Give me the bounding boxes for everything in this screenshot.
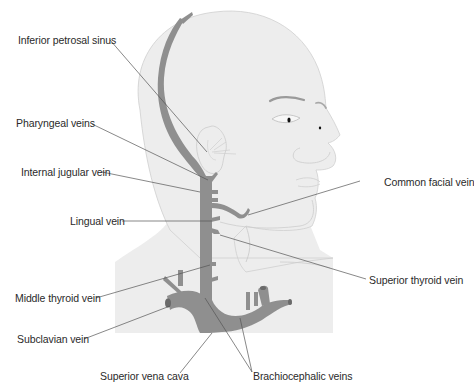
middle-thyroid-branch (211, 262, 216, 266)
label-superior-thyroid-vein: Superior thyroid vein (369, 274, 463, 286)
internal-jugular-trunk (200, 176, 212, 300)
label-superior-vena-cava: Superior vena cava (100, 370, 189, 382)
eye-pupil-far (319, 127, 321, 130)
label-middle-thyroid-vein: Middle thyroid vein (15, 292, 101, 304)
top-vein-opening (260, 286, 266, 290)
eye-pupil (287, 117, 290, 122)
label-inferior-petrosal-sinus: Inferior petrosal sinus (18, 34, 116, 46)
label-brachiocephalic-veins: Brachiocephalic veins (253, 370, 352, 382)
brachiocephalic-left-branch (246, 292, 250, 310)
label-common-facial-vein: Common facial vein (384, 176, 474, 188)
label-pharyngeal-veins: Pharyngeal veins (16, 117, 95, 129)
subclavian-opening (165, 299, 171, 308)
right-vein-opening (288, 299, 292, 305)
label-subclavian-vein: Subclavian vein (17, 333, 89, 345)
label-internal-jugular-vein: Internal jugular vein (21, 166, 111, 178)
label-lingual-vein: Lingual vein (70, 215, 125, 227)
